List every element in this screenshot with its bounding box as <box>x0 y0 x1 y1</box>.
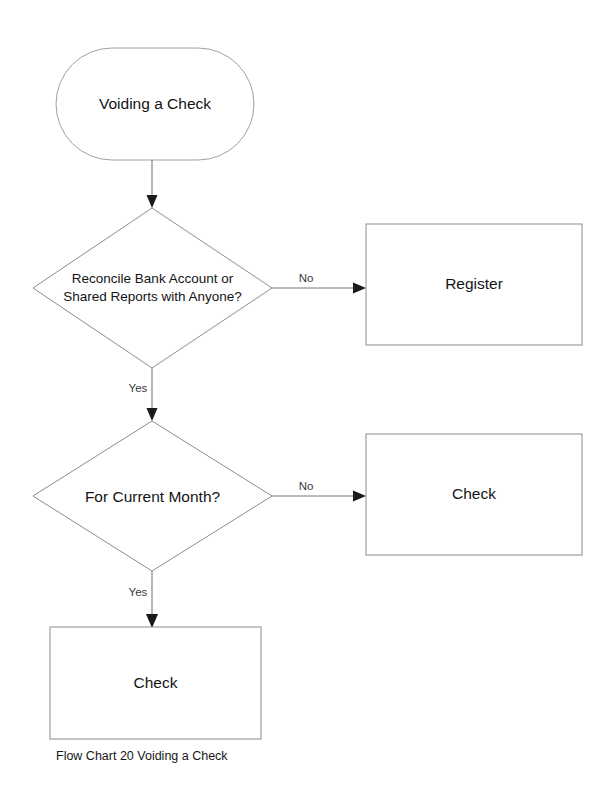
node-start-shape <box>56 48 254 160</box>
arrow-start-to-decision1 <box>147 195 158 208</box>
arrow-decision2-to-check-right <box>353 491 366 502</box>
node-decision-current-month-shape <box>33 421 272 571</box>
edge-label-decision2-yes: Yes <box>122 586 154 598</box>
node-register-shape <box>366 224 582 345</box>
flowchart-canvas <box>0 0 607 789</box>
arrow-decision1-to-register <box>353 283 366 294</box>
flowchart-page: Voiding a Check Reconcile Bank Account o… <box>0 0 607 789</box>
diagram-caption: Flow Chart 20 Voiding a Check <box>56 749 228 763</box>
arrow-decision1-to-decision2 <box>147 408 158 421</box>
edge-label-decision1-no: No <box>290 272 322 284</box>
node-decision-reconcile-shape <box>33 208 272 368</box>
edge-label-decision1-yes: Yes <box>122 382 154 394</box>
edge-label-decision2-no: No <box>290 480 322 492</box>
arrow-decision2-to-check-bottom <box>146 614 158 628</box>
node-check-bottom-shape <box>50 627 261 739</box>
node-check-right-shape <box>366 434 582 555</box>
